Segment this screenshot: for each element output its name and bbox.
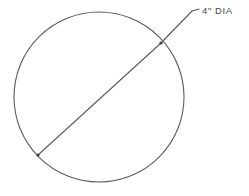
drawing-svg: 4" DIA [0,0,249,196]
dimension-label: 4" DIA [202,5,233,16]
circle-outline [14,12,184,182]
leader-landing-tick [192,9,199,11]
technical-drawing-canvas: 4" DIA [0,0,249,196]
diameter-endpoint-upper [159,41,162,44]
leader-line [161,11,192,43]
diameter-endpoint-lower [36,153,39,156]
diameter-line [38,43,161,155]
